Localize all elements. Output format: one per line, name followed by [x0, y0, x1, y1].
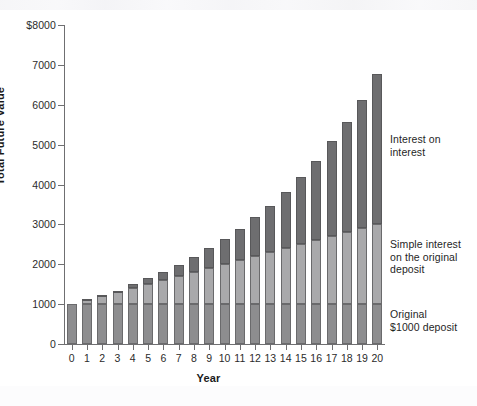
x-tick-label: 14: [280, 352, 292, 364]
x-tick-mark: [102, 345, 103, 350]
bar-column: [113, 25, 123, 344]
bar-segment-original-deposit: [327, 304, 337, 344]
annotation-simple-interest: Simple interest on the original deposit: [390, 238, 461, 276]
bar-column: [67, 25, 77, 344]
bar-column: [174, 25, 184, 344]
x-tick-mark: [194, 345, 195, 350]
bar-segment-interest-on-interest: [158, 272, 168, 280]
x-tick-mark: [148, 345, 149, 350]
y-tick-label: $8000: [0, 19, 56, 31]
bar-segment-interest-on-interest: [296, 177, 306, 244]
x-tick-mark: [347, 345, 348, 350]
x-tick-label: 18: [341, 352, 353, 364]
bar-segment-original-deposit: [204, 304, 214, 344]
bar-segment-simple-interest: [204, 268, 214, 304]
bar-segment-simple-interest: [189, 272, 199, 304]
bar-segment-interest-on-interest: [143, 278, 153, 284]
bar-segment-simple-interest: [235, 260, 245, 304]
x-tick-label: 9: [206, 352, 212, 364]
y-tick-label: 7000: [0, 59, 56, 71]
bar-segment-simple-interest: [342, 232, 352, 304]
bar-segment-original-deposit: [113, 304, 123, 344]
x-tick-label: 17: [326, 352, 338, 364]
bar-segment-original-deposit: [174, 304, 184, 344]
x-tick-label: 10: [219, 352, 231, 364]
x-tick-mark: [301, 345, 302, 350]
bar-segment-simple-interest: [372, 224, 382, 304]
bar-column: [342, 25, 352, 344]
bar-column: [311, 25, 321, 344]
bar-segment-original-deposit: [67, 304, 77, 344]
y-tick-label: 3000: [0, 218, 56, 230]
x-tick-mark: [163, 345, 164, 350]
bar-segment-original-deposit: [82, 304, 92, 344]
y-tick-label: 5000: [0, 139, 56, 151]
bar-column: [235, 25, 245, 344]
chart-canvas: 01000200030004000500060007000$8000 01234…: [0, 0, 477, 406]
bar-column: [250, 25, 260, 344]
x-tick-label: 15: [295, 352, 307, 364]
y-axis-title: Total Future Value: [0, 87, 6, 185]
bar-segment-original-deposit: [357, 304, 367, 344]
bar-segment-simple-interest: [296, 244, 306, 304]
bar-segment-simple-interest: [143, 284, 153, 304]
bar-segment-interest-on-interest: [311, 161, 321, 241]
bar-segment-original-deposit: [143, 304, 153, 344]
x-tick-mark: [270, 345, 271, 350]
bar-segment-interest-on-interest: [113, 291, 123, 293]
x-tick-label: 20: [372, 352, 384, 364]
bar-segment-interest-on-interest: [220, 239, 230, 264]
bar-segment-interest-on-interest: [189, 257, 199, 272]
x-tick-label: 5: [145, 352, 151, 364]
bar-segment-simple-interest: [311, 240, 321, 304]
x-tick-mark: [255, 345, 256, 350]
y-tick-label: 6000: [0, 99, 56, 111]
annotation-interest-on-interest: Interest on interest: [390, 133, 441, 158]
x-tick-label: 13: [265, 352, 277, 364]
y-tick-label: 2000: [0, 258, 56, 270]
x-tick-mark: [118, 345, 119, 350]
bar-column: [97, 25, 107, 344]
scan-artifact-bottom: [0, 386, 477, 406]
bar-segment-interest-on-interest: [327, 141, 337, 236]
x-tick-mark: [179, 345, 180, 350]
bar-segment-simple-interest: [97, 296, 107, 304]
y-tick-label: 0: [0, 338, 56, 350]
x-tick-label: 3: [115, 352, 121, 364]
x-tick-label: 4: [130, 352, 136, 364]
x-axis-title: Year: [0, 372, 477, 384]
x-tick-mark: [332, 345, 333, 350]
x-tick-label: 11: [234, 352, 245, 364]
y-tick-label: 4000: [0, 179, 56, 191]
x-tick-label: 6: [160, 352, 166, 364]
x-tick-mark: [377, 345, 378, 350]
bar-segment-interest-on-interest: [235, 229, 245, 261]
bar-segment-interest-on-interest: [82, 299, 92, 301]
bar-segment-original-deposit: [311, 304, 321, 344]
bar-column: [265, 25, 275, 344]
bar-segment-simple-interest: [158, 280, 168, 304]
bar-segment-simple-interest: [250, 256, 260, 304]
scan-artifact-top: [0, 0, 477, 10]
bar-segment-simple-interest: [327, 236, 337, 304]
bar-segment-simple-interest: [220, 264, 230, 304]
x-tick-label: 2: [99, 352, 105, 364]
y-tick-label: 1000: [0, 298, 56, 310]
x-tick-mark: [209, 345, 210, 350]
bar-column: [158, 25, 168, 344]
bar-segment-original-deposit: [296, 304, 306, 344]
bar-column: [281, 25, 291, 344]
bar-column: [357, 25, 367, 344]
bar-segment-interest-on-interest: [265, 206, 275, 253]
bar-segment-simple-interest: [357, 228, 367, 304]
bar-segment-original-deposit: [342, 304, 352, 344]
bar-segment-simple-interest: [265, 252, 275, 304]
x-tick-mark: [225, 345, 226, 350]
x-tick-mark: [72, 345, 73, 350]
x-tick-label: 16: [310, 352, 322, 364]
bar-segment-original-deposit: [281, 304, 291, 344]
bar-segment-original-deposit: [265, 304, 275, 344]
bar-column: [143, 25, 153, 344]
bar-series-group: [64, 25, 385, 344]
bar-segment-original-deposit: [97, 304, 107, 344]
